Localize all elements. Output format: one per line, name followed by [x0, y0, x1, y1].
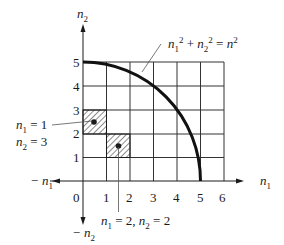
- arrow-x-pos: [236, 179, 244, 184]
- state-a-label-n2: n2 = 3: [16, 135, 47, 152]
- y-tick-2: 2: [73, 127, 80, 140]
- state-point-1-3: [91, 119, 97, 125]
- y-tick-1: 1: [73, 151, 80, 164]
- leader-curve-label: [142, 44, 161, 72]
- y-tick-4: 4: [73, 80, 80, 93]
- state-a-label-n1: n1 = 1: [16, 118, 47, 135]
- x-tick-1: 1: [103, 191, 110, 204]
- y-axis-label: n2: [77, 7, 88, 24]
- arrow-y-pos: [81, 24, 86, 32]
- arrow-x-neg: [52, 179, 60, 184]
- arrow-y-neg: [81, 217, 86, 225]
- circle-equation-label: n12 + n22 = n2: [168, 36, 238, 54]
- x-tick-0: 0: [73, 191, 80, 204]
- y-tick-5: 5: [73, 56, 80, 69]
- state-b-label: n1 = 2, n2 = 2: [101, 214, 170, 231]
- neg-x-axis-label: − n1: [30, 174, 53, 191]
- x-tick-2: 2: [126, 191, 133, 204]
- x-tick-3: 3: [150, 191, 157, 204]
- x-tick-6: 6: [219, 191, 226, 204]
- neg-y-axis-label: − n2: [72, 226, 95, 243]
- x-tick-5: 5: [197, 191, 204, 204]
- y-tick-3: 3: [73, 104, 80, 117]
- x-axis-label: n1: [260, 174, 271, 191]
- x-tick-4: 4: [173, 191, 180, 204]
